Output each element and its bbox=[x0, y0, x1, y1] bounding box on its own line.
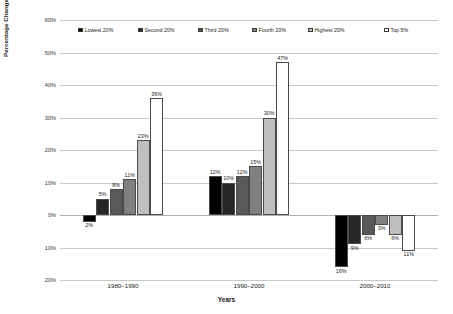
bar-value-label: 16% bbox=[326, 268, 356, 274]
bar bbox=[389, 215, 402, 235]
bar-group: 2%5%8%11%23%36%1980–1990 bbox=[60, 20, 186, 280]
bar-group: 12%10%12%15%30%47%1990–2000 bbox=[186, 20, 312, 280]
x-axis-category-label: 1990–2000 bbox=[186, 282, 312, 289]
bar-value-label: 9% bbox=[340, 245, 370, 251]
bar-value-label: 36% bbox=[142, 91, 172, 97]
bar bbox=[150, 98, 163, 215]
y-axis-tick-label: 40% bbox=[22, 82, 56, 88]
bar bbox=[83, 215, 96, 222]
bar-value-label: 6% bbox=[353, 235, 383, 241]
y-axis-tick-label: 60% bbox=[22, 17, 56, 23]
bar bbox=[375, 215, 388, 225]
x-axis-category-label: 2000–2010 bbox=[312, 282, 438, 289]
y-axis-tick-label: 20% bbox=[22, 277, 56, 283]
y-axis-title: Percentage Change bbox=[2, 0, 9, 88]
y-axis-tick-label: 30% bbox=[22, 115, 56, 121]
bar bbox=[402, 215, 415, 251]
bar-value-label: 2% bbox=[74, 222, 104, 228]
bar bbox=[249, 166, 262, 215]
bar bbox=[263, 118, 276, 216]
bar bbox=[110, 189, 123, 215]
bar bbox=[236, 176, 249, 215]
y-axis-tick-label: 0% bbox=[22, 212, 56, 218]
bar bbox=[209, 176, 222, 215]
bar bbox=[96, 199, 109, 215]
bar bbox=[276, 62, 289, 215]
bar bbox=[123, 179, 136, 215]
bar-group: 16%9%6%3%6%11%2000–2010 bbox=[312, 20, 438, 280]
bar bbox=[335, 215, 348, 267]
gridline bbox=[60, 280, 438, 281]
bar-chart: Percentage Change Years Lowest 20%Second… bbox=[0, 0, 453, 314]
bar-value-label: 11% bbox=[394, 251, 424, 257]
y-axis-tick-label: 50% bbox=[22, 50, 56, 56]
bar bbox=[222, 183, 235, 216]
y-axis-tick-label: 20% bbox=[22, 147, 56, 153]
bar-value-label: 12% bbox=[200, 169, 230, 175]
y-axis-tick-label: 10% bbox=[22, 245, 56, 251]
x-axis-category-label: 1980–1990 bbox=[60, 282, 186, 289]
plot-area: 60%50%40%30%20%10%0%10%20%2%5%8%11%23%36… bbox=[60, 20, 438, 280]
bar bbox=[137, 140, 150, 215]
x-axis-title: Years bbox=[0, 296, 453, 303]
bar-value-label: 47% bbox=[268, 55, 298, 61]
y-axis-tick-label: 10% bbox=[22, 180, 56, 186]
